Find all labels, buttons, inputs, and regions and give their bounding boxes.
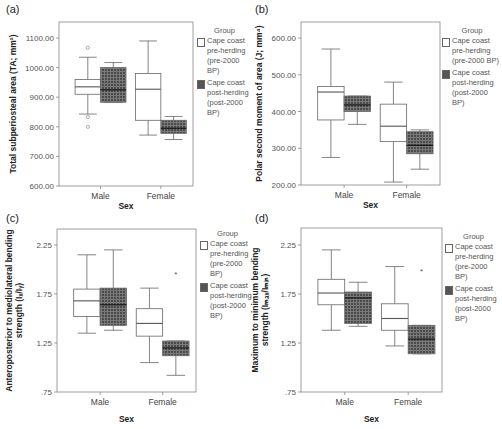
legend-label-line: Cape coast — [210, 239, 255, 249]
legend-label-line: post-herding — [452, 78, 502, 88]
legend-item-post-herding: Cape coastpost-herding(post-2000 BP) — [200, 281, 255, 321]
box-male-pre — [75, 46, 100, 128]
legend-swatch-white — [442, 38, 450, 47]
legend-label-line: pre-herding — [452, 46, 502, 56]
y-tick-label: 2.25 — [36, 241, 52, 250]
y-tick-label: 200.00 — [272, 181, 297, 190]
legend-label-line: (pre-2000 BP) — [452, 56, 502, 66]
legend-swatch-hatched — [445, 286, 453, 295]
box-male-pre — [318, 49, 344, 157]
outlier-marker — [86, 125, 89, 128]
legend-label-line: post-herding — [207, 88, 252, 98]
box-female-post: * — [408, 267, 435, 353]
box-female-post — [407, 130, 433, 169]
y-tick-label: 300.00 — [272, 144, 297, 153]
legend-swatch-hatched — [200, 283, 208, 292]
box-female-post: * — [163, 270, 189, 375]
legend-label-line: (post-2000 BP) — [207, 98, 252, 118]
y-tick-label: 1.75 — [280, 290, 296, 299]
x-category-label: Male — [91, 397, 110, 407]
legend-label-line: (post-2000 BP) — [452, 88, 502, 108]
legend-title: Group — [197, 26, 252, 36]
x-category-label: Male — [335, 397, 354, 407]
legend-title: Group — [445, 232, 502, 242]
boxplot-panel-d: .751.251.752.25MaleFemaleSexMaximum to m… — [250, 228, 442, 424]
legend-label-line: Cape coast — [452, 68, 502, 78]
legend-label-line: Cape coast — [455, 284, 502, 294]
x-axis-title: Sex — [363, 200, 378, 210]
legend-c: GroupCape coastpre-herding(pre-2000 BP)C… — [200, 229, 255, 321]
legend-item-pre-herding: Cape coastpre-herding(pre-2000 BP) — [197, 36, 252, 76]
box-male-pre — [74, 255, 100, 333]
legend-item-post-herding: Cape coastpost-herding(post-2000 BP) — [445, 284, 502, 324]
y-axis-title: Polar second moment of area (J; mm⁴) — [254, 25, 264, 181]
panel-label-c: (c) — [6, 212, 19, 224]
legend-swatch-hatched — [442, 70, 450, 79]
legend-label-line: Cape coast — [455, 242, 502, 252]
box-male-pre — [318, 250, 345, 330]
y-tick-label: 400.00 — [272, 108, 297, 117]
legend-label-line: Cape coast — [452, 36, 502, 46]
y-tick-label: 1.25 — [36, 339, 52, 348]
box-female-pre — [381, 267, 408, 346]
y-tick-label: 900.00 — [30, 93, 55, 102]
legend-title: Group — [442, 26, 502, 36]
boxplot-panel-b: 200.00300.00400.00500.00600.00MaleFemale… — [254, 22, 440, 210]
outlier-extreme-marker: * — [174, 270, 177, 279]
y-axis-title: Anteroposterior to mediolateral bending — [4, 229, 14, 391]
x-category-label: Female — [147, 191, 176, 201]
plot-frame — [59, 22, 193, 186]
y-axis-title: strength (Iₓ/Iᵧ) — [14, 283, 24, 338]
x-axis-title: Sex — [119, 414, 134, 424]
x-category-label: Female — [148, 397, 177, 407]
y-axis-title: strength (Iₘₐₓ/Iₘᵢₙ) — [260, 274, 270, 347]
y-tick-label: 500.00 — [272, 71, 297, 80]
legend-label-line: Cape coast — [207, 78, 252, 88]
box-female-pre — [380, 82, 406, 182]
legend-item-pre-herding: Cape coastpre-herding(pre-2000 BP) — [445, 242, 502, 282]
outlier-marker — [86, 115, 89, 118]
x-category-label: Male — [91, 191, 110, 201]
legend-label-line: pre-herding — [207, 46, 252, 56]
legend-label-line: (pre-2000 BP) — [455, 262, 502, 282]
box-male-post — [100, 250, 126, 330]
legend-item-pre-herding: Cape coastpre-herding(pre-2000 BP) — [442, 36, 502, 66]
legend-a: GroupCape coastpre-herding(pre-2000 BP)C… — [197, 26, 252, 118]
y-tick-label: 700.00 — [30, 152, 55, 161]
legend-swatch-white — [200, 241, 208, 250]
box-female-pre — [135, 41, 160, 135]
legend-label-line: pre-herding — [455, 252, 502, 262]
boxplot-panel-c: .751.251.752.25MaleFemaleSexAnteroposter… — [4, 229, 196, 424]
y-tick-label: .75 — [285, 388, 297, 397]
y-tick-label: 600.00 — [30, 182, 55, 191]
x-category-label: Female — [394, 397, 423, 407]
legend-label-line: (post-2000 BP) — [210, 301, 255, 321]
legend-label-line: Cape coast — [210, 281, 255, 291]
legend-label-line: (pre-2000 BP) — [210, 259, 255, 279]
legend-item-post-herding: Cape coastpost-herding(post-2000 BP) — [197, 78, 252, 118]
legend-swatch-white — [197, 38, 205, 47]
legend-d: GroupCape coastpre-herding(pre-2000 BP)C… — [445, 232, 502, 324]
legend-label-line: pre-herding — [210, 249, 255, 259]
legend-item-pre-herding: Cape coastpre-herding(pre-2000 BP) — [200, 239, 255, 279]
legend-item-post-herding: Cape coastpost-herding(post-2000 BP) — [442, 68, 502, 108]
y-axis-title: Total subperiosteal area (TA; mm²) — [8, 34, 18, 173]
legend-label-line: post-herding — [455, 294, 502, 304]
y-tick-label: .75 — [41, 388, 53, 397]
box-male-post — [345, 282, 372, 326]
legend-swatch-hatched — [197, 80, 205, 89]
legend-swatch-white — [445, 244, 453, 253]
y-tick-label: 1.25 — [280, 339, 296, 348]
y-tick-label: 1.75 — [36, 290, 52, 299]
y-tick-label: 800.00 — [30, 123, 55, 132]
legend-label-line: (pre-2000 BP) — [207, 56, 252, 76]
box-male-post — [101, 63, 126, 103]
boxplot-panel-a: 600.00700.00800.00900.001000.001100.00Ma… — [8, 22, 193, 211]
x-axis-title: Sex — [364, 414, 379, 424]
box-male-post — [344, 96, 370, 124]
panel-label-b: (b) — [255, 3, 268, 15]
box-female-pre — [136, 288, 162, 362]
legend-label-line: Cape coast — [207, 36, 252, 46]
legend-b: GroupCape coastpre-herding(pre-2000 BP)C… — [442, 26, 502, 108]
x-axis-title: Sex — [118, 201, 133, 211]
